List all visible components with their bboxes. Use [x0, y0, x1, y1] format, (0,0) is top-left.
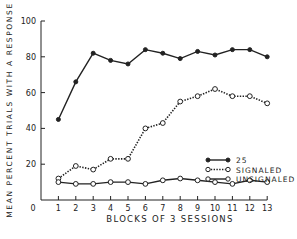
data-point: [213, 180, 218, 185]
data-point: [230, 94, 235, 99]
data-point: [109, 58, 113, 62]
legend-label: SIGNALED: [236, 166, 282, 175]
data-point: [91, 181, 96, 186]
data-point: [195, 178, 200, 183]
data-point: [265, 101, 270, 106]
x-tick-label: 4: [108, 204, 113, 213]
data-point: [178, 99, 183, 104]
data-point: [143, 48, 147, 52]
legend-marker: [226, 167, 230, 171]
series-25: [56, 48, 269, 122]
legend-label: UNSIGNALED: [236, 175, 295, 184]
data-point: [56, 180, 61, 185]
data-point: [91, 167, 96, 172]
y-tick-label: 40: [26, 124, 36, 133]
legend-marker: [206, 167, 210, 171]
data-point: [160, 178, 165, 183]
legend-marker: [226, 177, 230, 181]
x-tick-label: 12: [245, 204, 255, 213]
y-tick-label: 100: [21, 17, 36, 26]
data-point: [108, 156, 113, 161]
data-point: [126, 156, 131, 161]
data-point: [247, 94, 252, 99]
legend-marker: [206, 177, 210, 181]
data-point: [56, 117, 60, 121]
data-point: [73, 181, 78, 186]
data-point: [248, 48, 252, 52]
data-point: [161, 51, 165, 55]
x-tick-label: 10: [210, 204, 220, 213]
x-tick-label: 1: [56, 204, 61, 213]
data-point: [74, 80, 78, 84]
x-tick-label: 3: [91, 204, 96, 213]
data-point: [143, 181, 148, 186]
x-tick-label: 8: [178, 204, 183, 213]
data-point: [91, 51, 95, 55]
legend-marker: [226, 158, 230, 162]
line-chart: MEAN PERCENT TRIALS WITH A RESPONSE 2040…: [0, 0, 297, 239]
data-point: [230, 48, 234, 52]
legend: 25SIGNALEDUNSIGNALED: [206, 156, 296, 184]
x-tick-label: 7: [160, 204, 165, 213]
x-axis-title: BLOCKS OF 3 SESSIONS: [106, 214, 233, 224]
x-tick-label: 13: [262, 204, 272, 213]
legend-marker: [206, 158, 210, 162]
x-tick-label: 5: [125, 204, 130, 213]
data-point: [143, 126, 148, 131]
x-tick-label: 9: [195, 204, 200, 213]
data-point: [265, 55, 269, 59]
data-point: [196, 49, 200, 53]
data-point: [160, 121, 165, 126]
data-point: [195, 94, 200, 99]
data-point: [126, 62, 130, 66]
data-point: [178, 57, 182, 61]
data-point: [213, 53, 217, 57]
x-tick-label: 6: [143, 204, 148, 213]
y-axis-label: MEAN PERCENT TRIALS WITH A RESPONSE: [5, 2, 14, 217]
data-point: [213, 87, 218, 92]
data-point: [108, 180, 113, 185]
data-point: [230, 181, 235, 186]
data-point: [178, 176, 183, 181]
x-tick-label: 11: [227, 204, 237, 213]
series-line: [58, 50, 267, 120]
x-tick-label: 2: [73, 204, 78, 213]
x-tick-label: 0: [30, 204, 35, 213]
y-tick-label: 20: [26, 160, 36, 169]
y-tick-label: 80: [26, 53, 36, 62]
data-point: [126, 180, 131, 185]
y-tick-label: 60: [26, 89, 36, 98]
data-point: [73, 164, 78, 169]
legend-label: 25: [236, 156, 248, 165]
y-axis-title: MEAN PERCENT TRIALS WITH A RESPONSE: [5, 2, 14, 217]
